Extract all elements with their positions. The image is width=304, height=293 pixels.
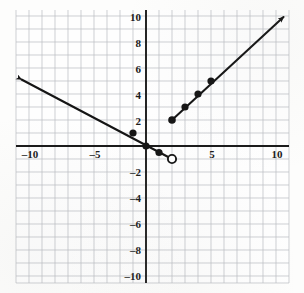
closed-point-5-5 (207, 77, 214, 84)
x-tick-label-neg5: –5 (89, 148, 102, 160)
y-tick-label-4: 4 (136, 89, 142, 101)
x-tick-label-neg10: –10 (21, 148, 39, 160)
closed-point-3-3 (181, 103, 188, 110)
open-point-2-neg1 (168, 155, 176, 163)
y-tick-label-neg2: –2 (129, 166, 142, 178)
closed-point-4-4 (194, 90, 201, 97)
y-tick-label-neg10: –10 (124, 270, 142, 282)
y-tick-label-neg6: –6 (129, 218, 142, 230)
y-tick-label-8: 8 (136, 37, 142, 49)
x-tick-label-5: 5 (209, 148, 215, 160)
y-tick-label-neg8: –8 (129, 244, 142, 256)
y-tick-label-10: 10 (130, 11, 142, 23)
closed-point-0-0 (142, 142, 149, 149)
closed-point-1-neghalf (155, 149, 162, 156)
closed-point-2-2 (168, 116, 176, 124)
closed-point-neg1-1 (129, 129, 136, 136)
coordinate-plane-svg: –10 –5 5 10 10 8 6 4 2 –2 –4 –6 –8 –10 (0, 0, 304, 293)
y-tick-label-2: 2 (136, 115, 142, 127)
x-tick-label-10: 10 (272, 148, 284, 160)
coordinate-graph-figure: –10 –5 5 10 10 8 6 4 2 –2 –4 –6 –8 –10 (0, 0, 304, 293)
y-tick-label-6: 6 (136, 63, 142, 75)
y-tick-label-neg4: –4 (129, 192, 142, 204)
